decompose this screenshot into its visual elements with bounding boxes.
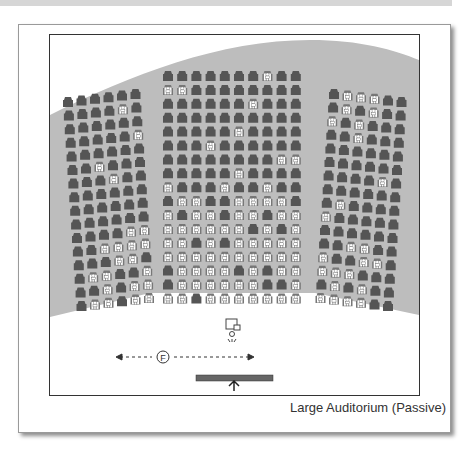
seat-empty <box>347 228 357 238</box>
seat-empty <box>191 168 201 178</box>
seat-empty <box>135 157 145 167</box>
seat-occupied <box>177 293 187 303</box>
seat-empty <box>355 106 365 116</box>
seat-empty <box>63 97 73 107</box>
seat-empty <box>206 182 216 192</box>
seat-empty <box>116 283 126 293</box>
seat-occupied <box>114 255 124 265</box>
seat-empty <box>163 280 173 290</box>
seat-occupied <box>359 257 369 267</box>
seat-empty <box>326 130 336 140</box>
seat-occupied <box>353 133 363 143</box>
seat-occupied <box>118 104 128 114</box>
seat-empty <box>191 71 201 81</box>
seat-empty <box>234 99 244 109</box>
seat-occupied <box>344 269 354 279</box>
seat-empty <box>338 159 348 169</box>
seat-occupied <box>191 280 201 290</box>
seat-occupied <box>321 211 331 221</box>
seat-empty <box>343 283 353 293</box>
seat-empty <box>234 182 244 192</box>
seat-empty <box>90 94 100 104</box>
seat-occupied <box>262 252 272 262</box>
seat-occupied <box>262 182 272 192</box>
seat-empty <box>191 127 201 137</box>
seat-empty <box>206 127 216 137</box>
seat-empty <box>277 113 287 123</box>
seat-empty <box>117 296 127 306</box>
seat-empty <box>122 159 132 169</box>
seat-empty <box>375 218 385 228</box>
seat-empty <box>324 171 334 181</box>
seat-occupied <box>277 266 287 276</box>
seat-occupied <box>177 280 187 290</box>
seat-empty <box>348 215 358 225</box>
seat-occupied <box>277 252 287 262</box>
seat-empty <box>352 160 362 170</box>
seat-empty <box>220 71 230 81</box>
seat-occupied <box>372 259 382 269</box>
seat-occupied <box>191 266 201 276</box>
figure-caption: Large Auditorium (Passive) <box>290 400 446 415</box>
seat-empty <box>277 168 287 178</box>
seat-empty <box>95 175 105 185</box>
seat-occupied <box>177 224 187 234</box>
seat-occupied <box>177 266 187 276</box>
seat-empty <box>191 238 201 248</box>
seat-empty <box>108 160 118 170</box>
seat-empty <box>86 231 96 241</box>
seat-empty <box>394 138 404 148</box>
seat-occupied <box>277 293 287 303</box>
seat-occupied <box>234 252 244 262</box>
seat-empty <box>384 287 394 297</box>
auditorium-plan: F <box>50 35 419 395</box>
seat-empty <box>368 121 378 131</box>
seat-empty <box>177 99 187 109</box>
seat-empty <box>349 201 359 211</box>
seat-occupied <box>126 227 136 237</box>
seat-occupied <box>220 280 230 290</box>
seat-occupied <box>133 130 143 140</box>
seat-empty <box>382 109 392 119</box>
seat-empty <box>383 95 393 105</box>
seat-empty <box>81 163 91 173</box>
seat-occupied <box>144 293 154 303</box>
seat-occupied <box>90 299 100 309</box>
seat-occupied <box>360 243 370 253</box>
seat-occupied <box>335 199 345 209</box>
seat-occupied <box>163 182 173 192</box>
seat-empty <box>163 266 173 276</box>
seat-occupied <box>234 168 244 178</box>
seat-occupied <box>234 224 244 234</box>
seat-empty <box>334 213 344 223</box>
seat-empty <box>396 111 406 121</box>
seat-occupied <box>262 238 272 248</box>
seat-occupied <box>316 293 326 303</box>
seat-occupied <box>103 284 113 294</box>
seat-empty <box>277 127 287 137</box>
seat-empty <box>341 118 351 128</box>
seat-empty <box>234 113 244 123</box>
seat-occupied <box>206 210 216 220</box>
seat-empty <box>277 85 287 95</box>
seat-empty <box>124 199 134 209</box>
seat-empty <box>388 219 398 229</box>
seat-occupied <box>163 293 173 303</box>
seat-occupied <box>356 298 366 308</box>
seat-empty <box>262 141 272 151</box>
seat-occupied <box>234 210 244 220</box>
seat-empty <box>77 95 87 105</box>
seat-empty <box>277 224 287 234</box>
seat-empty <box>163 113 173 123</box>
seat-empty <box>277 99 287 109</box>
seat-empty <box>220 127 230 137</box>
seat-occupied <box>330 281 340 291</box>
seat-empty <box>262 210 272 220</box>
seat-occupied <box>234 238 244 248</box>
seat-empty <box>220 141 230 151</box>
seat-occupied <box>346 242 356 252</box>
seat-empty <box>376 204 386 214</box>
seat-occupied <box>177 85 187 95</box>
seat-empty <box>206 168 216 178</box>
seat-empty <box>339 145 349 155</box>
